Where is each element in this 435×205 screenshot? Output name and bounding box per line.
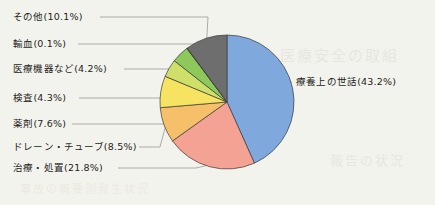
pie-slice-label: その他(10.1%): [13, 12, 83, 22]
pie-slice-label: 輸血(0.1%): [13, 39, 66, 49]
leader-line: [78, 44, 196, 50]
leader-line: [139, 124, 166, 147]
pie-slice-label: 療養上の世話(43.2%): [296, 77, 396, 87]
pie-slice-label: ドレーン・チューブ(8.5%): [13, 142, 137, 152]
pie-slice-label: 薬剤(7.6%): [13, 119, 66, 129]
pie-slice-label: 治療・処置(21.8%): [13, 163, 103, 173]
pie-chart-figure: 医療安全の取組 報告の状況 事故の概要別発生状況 療養上の世話(43.2%)治療…: [0, 0, 435, 205]
pie-slice-label: 医療機器など(4.2%): [13, 64, 107, 74]
leader-line: [72, 92, 166, 124]
pie-slices-group: [160, 35, 294, 169]
leader-line: [118, 165, 210, 168]
pie-slice-label: 検査(4.3%): [13, 93, 66, 103]
leader-line: [100, 17, 208, 40]
